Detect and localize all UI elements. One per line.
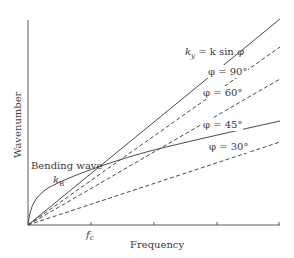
angle-label-30: φ = 30° bbox=[209, 141, 248, 152]
angle-label-90: φ = 90° bbox=[208, 66, 247, 77]
bending-wave-label: Bending wave bbox=[31, 160, 102, 171]
bending-wave-symbol: kB bbox=[53, 174, 64, 188]
bending-wave-curve bbox=[28, 121, 280, 225]
line-phi-30 bbox=[28, 142, 280, 225]
fc-tick-label: fc bbox=[85, 229, 94, 242]
formula-label: ky = k sin φ bbox=[185, 46, 244, 60]
y-axis-label: Wavenumber bbox=[12, 91, 23, 158]
angle-label-45: φ = 45° bbox=[203, 119, 242, 130]
wavenumber-diagram: ky = k sin φ φ = 90° φ = 60° φ = 45° φ =… bbox=[0, 0, 294, 258]
angle-label-60: φ = 60° bbox=[203, 87, 242, 98]
x-axis-label: Frequency bbox=[130, 239, 184, 250]
